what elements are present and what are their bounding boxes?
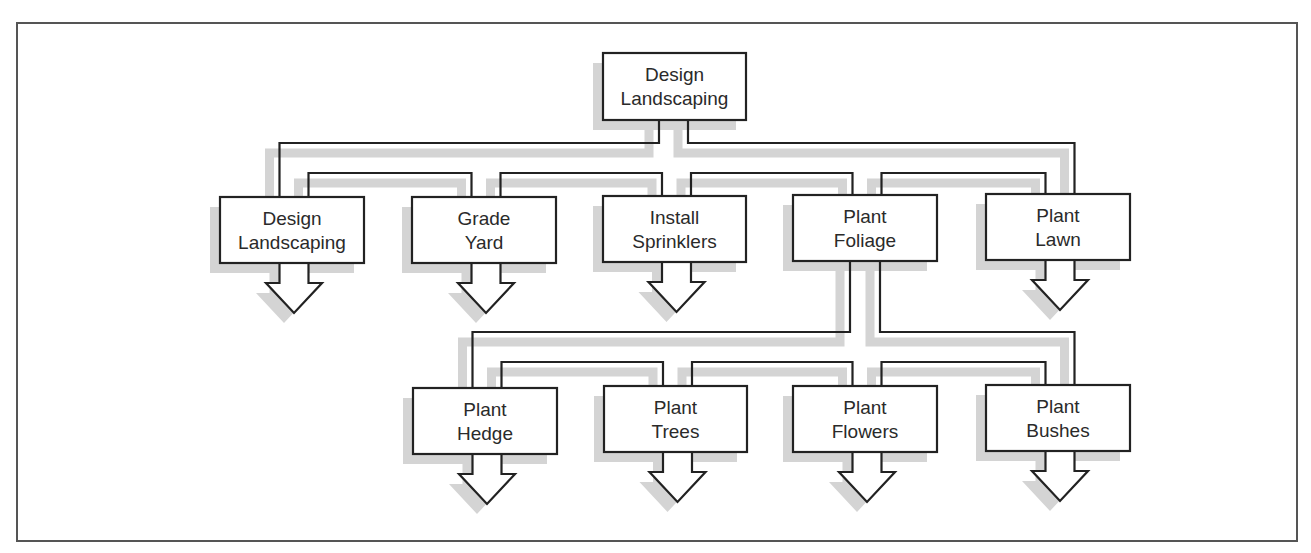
plant-lawn-node[interactable]: PlantLawn (986, 194, 1130, 260)
plant-foliage-node[interactable]: PlantFoliage (793, 195, 937, 261)
plant-flowers-node[interactable]: PlantFlowers (793, 386, 937, 452)
plant-foliage-box[interactable] (793, 195, 937, 261)
design-landscaping-root-node[interactable]: DesignLandscaping (603, 53, 746, 120)
plant-hedge-label-line-2: Hedge (457, 423, 513, 444)
plant-bushes-label-line-1: Plant (1036, 396, 1080, 417)
install-sprinklers-label-line-2: Sprinklers (632, 231, 716, 252)
plant-trees-node[interactable]: PlantTrees (604, 386, 747, 452)
design-landscaping-label-line-1: Design (262, 208, 321, 229)
plant-hedge-label-line-1: Plant (463, 399, 507, 420)
plant-foliage-label-line-1: Plant (843, 206, 887, 227)
plant-hedge-node[interactable]: PlantHedge (413, 388, 557, 454)
plant-trees-label-line-1: Plant (654, 397, 698, 418)
plant-bushes-node[interactable]: PlantBushes (986, 385, 1130, 451)
design-landscaping-box[interactable] (220, 197, 364, 263)
plant-trees-box[interactable] (604, 386, 747, 452)
design-landscaping-root-label-line-1: Design (645, 64, 704, 85)
grade-yard-node[interactable]: GradeYard (412, 197, 556, 263)
box-layer: DesignLandscapingDesignLandscapingGradeY… (220, 53, 1130, 454)
plant-hedge-box[interactable] (413, 388, 557, 454)
install-sprinklers-label-line-1: Install (650, 207, 700, 228)
plant-bushes-box[interactable] (986, 385, 1130, 451)
plant-lawn-label-line-1: Plant (1036, 205, 1080, 226)
plant-bushes-label-line-2: Bushes (1026, 420, 1089, 441)
install-sprinklers-box[interactable] (603, 196, 746, 262)
plant-foliage-label-line-2: Foliage (834, 230, 896, 251)
plant-lawn-label-line-2: Lawn (1035, 229, 1080, 250)
design-landscaping-label-line-2: Landscaping (238, 232, 346, 253)
grade-yard-label-line-2: Yard (465, 232, 504, 253)
plant-flowers-label-line-2: Flowers (832, 421, 899, 442)
grade-yard-label-line-1: Grade (458, 208, 511, 229)
arrow-layer (266, 260, 1088, 504)
install-sprinklers-node[interactable]: InstallSprinklers (603, 196, 746, 262)
landscaping-breakdown-diagram: DesignLandscapingDesignLandscapingGradeY… (0, 0, 1311, 553)
plant-trees-label-line-2: Trees (652, 421, 700, 442)
design-landscaping-node[interactable]: DesignLandscaping (220, 197, 364, 263)
plant-flowers-box[interactable] (793, 386, 937, 452)
plant-lawn-box[interactable] (986, 194, 1130, 260)
design-landscaping-root-label-line-2: Landscaping (621, 88, 729, 109)
grade-yard-box[interactable] (412, 197, 556, 263)
plant-flowers-label-line-1: Plant (843, 397, 887, 418)
